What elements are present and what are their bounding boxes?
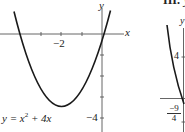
left-x-axis-label: x <box>125 26 130 38</box>
equation-base: y = x <box>2 112 25 124</box>
right-header-var: y <box>184 0 185 7</box>
equation-rest: + 4x <box>28 112 51 124</box>
right-header-roman: III. <box>163 0 180 7</box>
right-y-axis-label: y <box>180 15 184 26</box>
y-tick-label-neg4: −4 <box>86 111 98 123</box>
x-tick-label-neg2: −2 <box>53 37 65 49</box>
right-tick-label-frac: −9 4 <box>167 104 181 123</box>
right-header: III. y <box>163 0 185 8</box>
left-y-axis-label: y <box>99 0 104 11</box>
curve-iii <box>167 25 184 104</box>
parabola-curve <box>14 11 111 107</box>
equation-label: y = x2 + 4x <box>2 111 52 125</box>
frac-denominator: 4 <box>167 114 181 123</box>
right-tick-label-4: 4 <box>174 50 179 61</box>
